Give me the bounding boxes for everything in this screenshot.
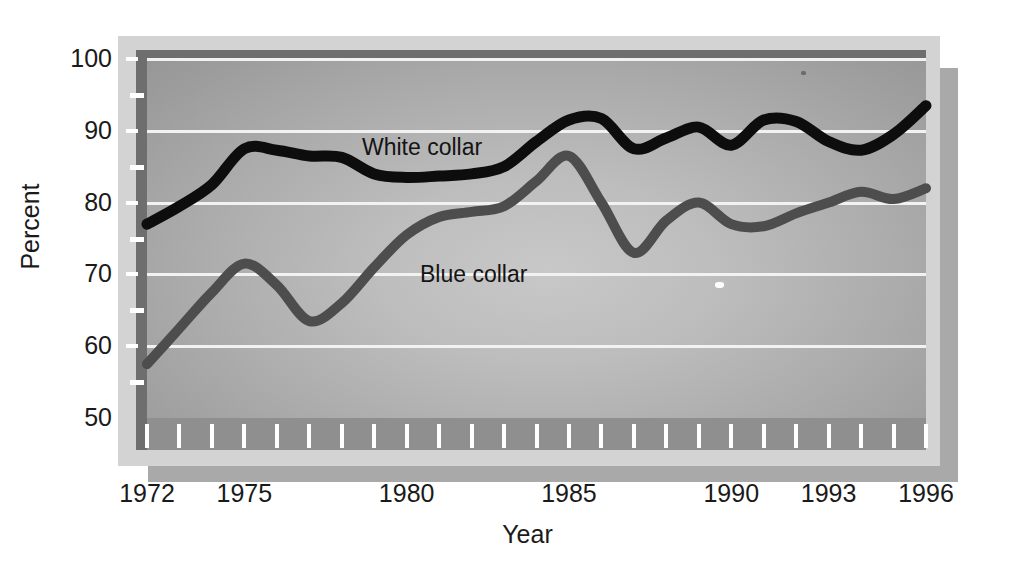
y-axis-minor-tick [130, 93, 144, 98]
y-axis-tick [126, 129, 138, 133]
x-axis-tick [372, 424, 376, 448]
scan-artifact-speck [715, 282, 724, 288]
y-axis-minor-tick [130, 165, 144, 170]
x-axis-tick [145, 424, 149, 448]
y-axis-tick-label: 60 [50, 333, 112, 358]
plot-panel [136, 50, 926, 450]
y-axis-tick [126, 272, 138, 276]
x-axis-title: Year [23, 520, 1009, 549]
y-axis-tick-label: 80 [50, 190, 112, 215]
y-axis-minor-tick [130, 308, 144, 313]
x-axis-tick-label: 1996 [866, 481, 986, 506]
gridline [147, 130, 926, 133]
x-axis-tick [470, 424, 474, 448]
x-axis-tick [697, 424, 701, 448]
y-axis-tick-label: 70 [50, 261, 112, 286]
x-axis-tick [177, 424, 181, 448]
x-axis-tick [762, 424, 766, 448]
y-axis-tick-label: 50 [50, 405, 112, 430]
x-axis-tick [210, 424, 214, 448]
x-axis-tick [794, 424, 798, 448]
y-axis-tick-label: 100 [50, 46, 112, 71]
y-axis-title: Percent [16, 167, 45, 287]
gridline [147, 273, 926, 276]
x-axis-tick [307, 424, 311, 448]
chart-figure: 1009080706050 19721975198019851990199319… [0, 0, 1009, 576]
x-axis-tick [924, 424, 928, 448]
x-axis-tick [275, 424, 279, 448]
x-axis-tick-label: 1985 [509, 481, 629, 506]
panel-bevel-left [136, 50, 147, 450]
x-axis-tick [827, 424, 831, 448]
x-axis-tick-label: 1975 [184, 481, 304, 506]
x-axis-tick [340, 424, 344, 448]
x-axis-tick [599, 424, 603, 448]
y-axis-minor-tick [130, 380, 144, 385]
x-axis-tick-label: 1980 [347, 481, 467, 506]
y-axis-tick [126, 344, 138, 348]
x-axis-tick [242, 424, 246, 448]
y-axis-minor-tick [130, 237, 144, 242]
x-axis-tick [892, 424, 896, 448]
x-axis-tick [405, 424, 409, 448]
figure-shadow-right [940, 68, 958, 472]
gridline [147, 58, 926, 61]
series-label-white-collar: White collar [362, 136, 482, 159]
x-axis-tick [632, 424, 636, 448]
x-axis-tick [535, 424, 539, 448]
y-axis-tick [126, 57, 138, 61]
x-axis-tick [729, 424, 733, 448]
x-axis-tick [567, 424, 571, 448]
y-axis-tick-label: 90 [50, 118, 112, 143]
x-axis-tick [859, 424, 863, 448]
x-axis-tick [502, 424, 506, 448]
x-axis-tick [664, 424, 668, 448]
y-axis-tick [126, 201, 138, 205]
scan-artifact-speck [801, 71, 806, 75]
gridline [147, 202, 926, 205]
gridline [147, 345, 926, 348]
x-axis-tick [437, 424, 441, 448]
series-label-blue-collar: Blue collar [420, 263, 527, 286]
